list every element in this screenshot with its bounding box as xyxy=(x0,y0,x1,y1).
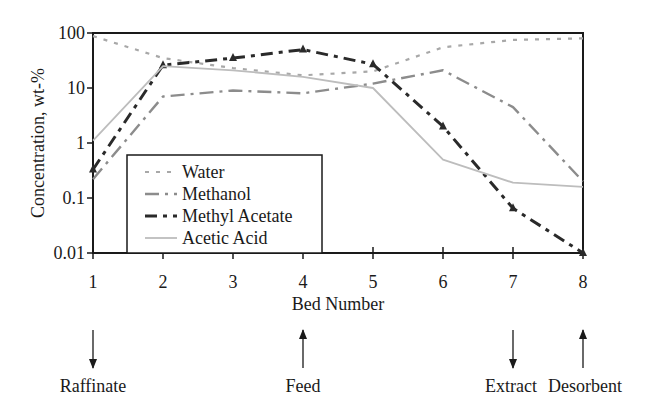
triangle-marker-icon xyxy=(369,59,377,67)
legend-label: Methyl Acetate xyxy=(182,206,292,226)
stream-desorbent: Desorbent xyxy=(548,329,622,396)
legend-label: Methanol xyxy=(182,184,251,204)
y-axis-title: Concentration, wt-% xyxy=(28,68,48,218)
y-tick-label: 1 xyxy=(76,133,85,153)
y-axis: 1001010.10.01 xyxy=(54,23,95,263)
arrowhead-down-icon xyxy=(509,359,517,369)
stream-feed: Feed xyxy=(286,329,321,396)
legend-label: Acetic Acid xyxy=(182,228,267,248)
x-tick-label: 4 xyxy=(299,272,308,292)
legend-label: Water xyxy=(182,162,225,182)
arrowhead-up-icon xyxy=(579,329,587,339)
x-tick-label: 7 xyxy=(509,272,518,292)
concentration-profile-chart: 1001010.10.01 12345678 WaterMethanolMeth… xyxy=(0,0,670,417)
x-tick-label: 2 xyxy=(159,272,168,292)
y-tick-label: 100 xyxy=(58,23,85,43)
y-tick-label: 0.01 xyxy=(54,243,86,263)
stream-annotations: RaffinateFeedExtractDesorbent xyxy=(60,329,622,396)
y-tick-label: 10 xyxy=(67,78,85,98)
x-tick-label: 1 xyxy=(89,272,98,292)
y-tick-label: 0.1 xyxy=(63,188,86,208)
x-tick-label: 6 xyxy=(439,272,448,292)
x-tick-label: 3 xyxy=(229,272,238,292)
legend: WaterMethanolMethyl AcetateAcetic Acid xyxy=(127,155,322,253)
x-axis-title: Bed Number xyxy=(292,294,384,314)
stream-raffinate: Raffinate xyxy=(60,330,127,396)
arrowhead-up-icon xyxy=(299,329,307,339)
x-tick-label: 5 xyxy=(369,272,378,292)
stream-label: Raffinate xyxy=(60,376,127,396)
stream-extract: Extract xyxy=(485,330,537,396)
stream-label: Feed xyxy=(286,376,321,396)
arrowhead-down-icon xyxy=(89,359,97,369)
stream-label: Desorbent xyxy=(548,376,622,396)
stream-label: Extract xyxy=(485,376,537,396)
x-tick-label: 8 xyxy=(579,272,588,292)
